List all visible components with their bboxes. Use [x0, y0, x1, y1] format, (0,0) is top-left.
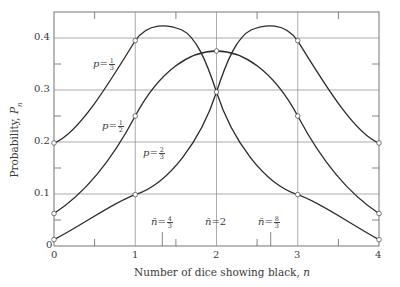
x-tick-2: 2 — [213, 249, 219, 260]
x-axis-title: Number of dice showing black, n — [134, 266, 310, 278]
label-p-one-half: p=12 — [102, 120, 124, 133]
x-tick-4: 4 — [375, 249, 381, 260]
label-p-two-thirds: p=23 — [143, 147, 165, 160]
y-tick-0.1: 0.1 — [34, 187, 50, 198]
label-p-one-third: p=13 — [93, 58, 115, 71]
annotation-mean-eight-thirds: n̄=83 — [258, 216, 280, 229]
annotation-mean-two: n̄=2 — [205, 216, 226, 227]
x-gridlines — [135, 12, 298, 246]
y-axis-title: Probability, Pn — [8, 102, 23, 177]
chart-canvas — [0, 0, 400, 287]
annotation-mean-four-thirds: n̄=43 — [151, 216, 173, 229]
x-tick-0: 0 — [51, 249, 57, 260]
y-tick-0.4: 0.4 — [34, 31, 50, 42]
y-tick-0.3: 0.3 — [34, 83, 50, 94]
x-tick-1: 1 — [132, 249, 138, 260]
x-tick-3: 3 — [294, 249, 300, 260]
y-tick-0.2: 0.2 — [34, 135, 50, 146]
